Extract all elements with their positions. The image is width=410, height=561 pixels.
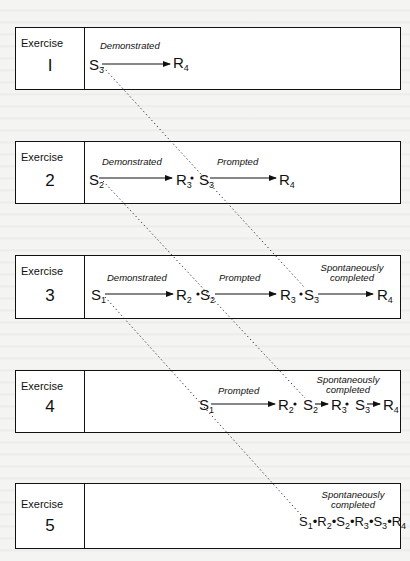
exercise-2-r3: R3 — [176, 172, 192, 193]
exercise-3-prompted-label: Prompted — [219, 273, 260, 283]
exercise-2-box: Exercise 2 Demonstrated Prompted S2 R3 S… — [15, 141, 401, 204]
arrow-group — [99, 64, 380, 404]
exercise-2-s3: S3 — [199, 172, 214, 193]
exercise-1-label-cell: Exercise I — [16, 28, 85, 89]
exercise-4-r3: R3 — [331, 397, 347, 418]
exercise-5-title: Exercise — [21, 498, 63, 510]
exercise-5-number: 5 — [16, 516, 84, 536]
exercise-4-s2: S2 — [303, 397, 318, 418]
exercise-4-title: Exercise — [21, 380, 63, 392]
exercise-1-r4: R4 — [173, 55, 189, 76]
exercise-4-box: Exercise 4 Prompted Spontaneouslycomplet… — [15, 370, 401, 433]
exercise-1-s3: S3 — [89, 57, 104, 78]
exercise-3-s1: S1 — [91, 287, 106, 308]
exercise-4-s3: S3 — [355, 397, 370, 418]
exercise-4-s1: S1 — [199, 397, 214, 418]
exercise-5-chain: S1•R2•S2•R3•S3•R4 — [299, 514, 406, 534]
exercise-5-box: Exercise 5 Spontaneouslycompleted S1•R2•… — [15, 483, 401, 549]
exercise-1-box: Exercise I Demonstrated S3 R4 — [15, 27, 401, 90]
exercise-3-r4: R4 — [377, 287, 393, 308]
exercise-3-r3: R3 — [280, 287, 296, 308]
exercise-1-title: Exercise — [21, 37, 63, 49]
exercise-4-label-cell: Exercise 4 — [16, 371, 85, 432]
exercise-3-r2: R2 — [176, 287, 192, 308]
exercise-4-spontaneous-label: Spontaneouslycompleted — [313, 375, 383, 395]
exercise-3-box: Exercise 3 Demonstrated Prompted Spontan… — [15, 255, 401, 319]
exercise-3-number: 3 — [16, 286, 84, 306]
exercise-1-number: I — [16, 56, 84, 76]
exercise-3-label-cell: Exercise 3 — [16, 256, 85, 318]
exercise-3-s3: S3 — [304, 287, 319, 308]
exercise-1-demonstrated-label: Demonstrated — [100, 41, 160, 51]
exercise-2-r4: R4 — [279, 172, 295, 193]
exercise-3-s2: S2 — [200, 287, 215, 308]
exercise-4-prompted-label: Prompted — [218, 386, 259, 396]
exercise-3-demonstrated-label: Demonstrated — [107, 273, 167, 283]
exercise-3-title: Exercise — [21, 265, 63, 277]
exercise-2-s2: S2 — [89, 172, 104, 193]
exercise-4-number: 4 — [16, 397, 84, 417]
exercise-5-label-cell: Exercise 5 — [16, 484, 85, 548]
exercise-2-title: Exercise — [21, 151, 63, 163]
exercise-5-spontaneous-label: Spontaneouslycompleted — [318, 490, 388, 510]
exercise-2-number: 2 — [16, 171, 84, 191]
exercise-2-label-cell: Exercise 2 — [16, 142, 85, 203]
exercise-2-prompted-label: Prompted — [217, 157, 258, 167]
exercise-3-spontaneous-label: Spontaneouslycompleted — [317, 263, 387, 283]
exercise-2-demonstrated-label: Demonstrated — [102, 157, 162, 167]
exercise-4-r2: R2 — [278, 397, 294, 418]
exercise-4-r4: R4 — [383, 397, 399, 418]
